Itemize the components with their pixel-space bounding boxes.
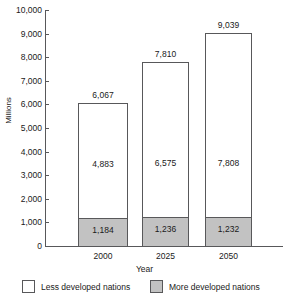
y-tick-mark xyxy=(45,152,49,153)
y-tick-mark xyxy=(45,81,49,82)
bar-total-label: 9,039 xyxy=(205,20,252,30)
bar-segment-value-less-developed: 4,883 xyxy=(78,159,128,169)
y-tick-label-text: 1,000 xyxy=(2,217,42,227)
bar-segment-value-more-developed: 1,236 xyxy=(142,224,189,234)
y-tick-label: 8,000 xyxy=(0,52,42,62)
y-tick-mark xyxy=(45,199,49,200)
legend-label: More developed nations xyxy=(169,282,260,292)
x-tick-label: 2050 xyxy=(205,251,252,261)
y-tick-label-text: 7,000 xyxy=(2,76,42,86)
y-tick-label: 7,000 xyxy=(0,76,42,86)
y-tick-label-text: 4,000 xyxy=(2,147,42,157)
bar-total-label: 6,067 xyxy=(78,90,128,100)
bar-group[interactable]: 6,5751,2367,810 xyxy=(142,0,189,246)
legend-label: Less developed nations xyxy=(41,282,130,292)
y-tick-label: 3,000 xyxy=(0,170,42,180)
x-tick-label: 2025 xyxy=(142,251,189,261)
bar-segment-less-developed[interactable] xyxy=(205,33,252,218)
y-tick-mark xyxy=(45,222,49,223)
y-tick-label-text: 0 xyxy=(2,241,42,251)
y-tick-mark xyxy=(45,175,49,176)
y-tick-label: 1,000 xyxy=(0,217,42,227)
legend-swatch-icon xyxy=(22,280,35,293)
y-tick-label-text: 8,000 xyxy=(2,52,42,62)
y-tick-mark xyxy=(45,34,49,35)
y-tick-label: 9,000 xyxy=(0,29,42,39)
x-tick-label: 2000 xyxy=(78,251,128,261)
y-tick-label: 4,000 xyxy=(0,147,42,157)
y-tick-label: 6,000 xyxy=(0,99,42,109)
y-tick-label: 2,000 xyxy=(0,194,42,204)
y-tick-mark xyxy=(45,10,49,11)
y-tick-label: 0 xyxy=(0,241,42,251)
bar-group[interactable]: 4,8831,1846,067 xyxy=(78,0,128,246)
y-tick-label-text: 9,000 xyxy=(2,29,42,39)
bar-segment-less-developed[interactable] xyxy=(142,62,189,218)
population-stacked-bar-chart: Millions 10,0009,0008,0007,0006,0005,000… xyxy=(0,0,289,299)
y-tick-mark xyxy=(45,104,49,105)
y-tick-label: 10,000 xyxy=(0,5,42,15)
legend-swatch-icon xyxy=(150,280,163,293)
x-axis-title: Year xyxy=(0,264,289,274)
x-axis-line xyxy=(45,246,283,247)
y-tick-label-text: 3,000 xyxy=(2,170,42,180)
y-tick-label-text: 6,000 xyxy=(2,99,42,109)
y-tick-label: 5,000 xyxy=(0,123,42,133)
bar-segment-value-less-developed: 6,575 xyxy=(142,158,189,168)
bar-segment-value-more-developed: 1,232 xyxy=(205,224,252,234)
bar-group[interactable]: 7,8081,2329,039 xyxy=(205,0,252,246)
bar-segment-value-more-developed: 1,184 xyxy=(78,225,128,235)
chart-legend: Less developed nationsMore developed nat… xyxy=(0,277,289,299)
y-tick-mark xyxy=(45,128,49,129)
bar-segment-value-less-developed: 7,808 xyxy=(205,158,252,168)
bar-total-label: 7,810 xyxy=(142,49,189,59)
y-tick-label-text: 2,000 xyxy=(2,194,42,204)
legend-entry[interactable]: More developed nations xyxy=(150,280,260,293)
y-tick-label-text: 10,000 xyxy=(2,5,42,15)
y-tick-label-text: 5,000 xyxy=(2,123,42,133)
y-tick-mark xyxy=(45,57,49,58)
legend-entry[interactable]: Less developed nations xyxy=(22,280,130,293)
